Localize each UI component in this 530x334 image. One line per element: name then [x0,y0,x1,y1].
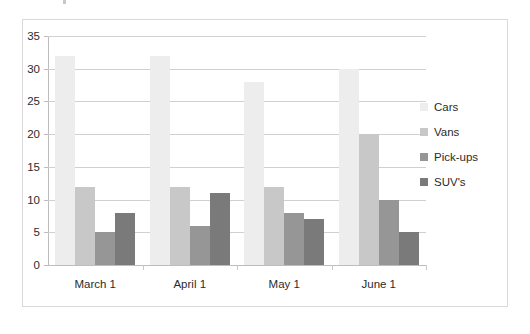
bar-cars-june-1[interactable] [339,69,359,265]
y-tick-label-10: 10 [27,194,40,206]
legend-swatch-cars [420,103,428,111]
y-tick-mark-35 [44,36,48,37]
image-artifact [63,0,66,4]
bar-group-june-1 [339,36,419,265]
bar-pick-ups-june-1[interactable] [379,200,399,265]
bar-vans-may-1[interactable] [264,187,284,266]
chart-legend: CarsVansPick-upsSUV's [420,94,505,194]
legend-label-suv-s: SUV's [434,176,466,188]
bar-vans-june-1[interactable] [359,134,379,265]
y-tick-mark-20 [44,134,48,135]
x-axis-label-april-1: April 1 [173,278,206,290]
y-tick-mark-30 [44,69,48,70]
y-tick-label-35: 35 [27,30,40,42]
legend-swatch-suv-s [420,178,428,186]
y-axis-line [48,36,49,265]
y-tick-mark-15 [44,167,48,168]
bar-suv-s-april-1[interactable] [210,193,230,265]
y-tick-label-15: 15 [27,161,40,173]
bar-group-may-1 [244,36,324,265]
bar-suv-s-may-1[interactable] [304,219,324,265]
category-separator-3 [332,265,333,270]
x-axis-label-june-1: June 1 [361,278,396,290]
category-separator-1 [143,265,144,270]
legend-item-pick-ups[interactable]: Pick-ups [420,144,505,169]
y-tick-mark-25 [44,101,48,102]
bar-group-april-1 [150,36,230,265]
y-tick-label-25: 25 [27,95,40,107]
x-axis-label-may-1: May 1 [269,278,300,290]
legend-swatch-vans [420,128,428,136]
bar-cars-may-1[interactable] [244,82,264,265]
legend-item-cars[interactable]: Cars [420,94,505,119]
legend-label-cars: Cars [434,101,458,113]
y-tick-label-30: 30 [27,63,40,75]
bar-pick-ups-april-1[interactable] [190,226,210,265]
bar-vans-april-1[interactable] [170,187,190,266]
bar-suv-s-june-1[interactable] [399,232,419,265]
y-tick-label-20: 20 [27,128,40,140]
legend-swatch-pick-ups [420,153,428,161]
y-tick-mark-0 [44,265,48,266]
plot-area: 05101520253035 March 1April 1May 1June 1 [48,36,426,265]
bar-suv-s-march-1[interactable] [115,213,135,265]
legend-label-vans: Vans [434,126,459,138]
x-axis-label-march-1: March 1 [74,278,116,290]
bar-group-march-1 [55,36,135,265]
bar-pick-ups-may-1[interactable] [284,213,304,265]
legend-item-suv-s[interactable]: SUV's [420,169,505,194]
category-separator-4 [426,265,427,270]
bar-cars-march-1[interactable] [55,56,75,265]
y-tick-mark-10 [44,200,48,201]
legend-label-pick-ups: Pick-ups [434,151,478,163]
legend-item-vans[interactable]: Vans [420,119,505,144]
y-tick-mark-5 [44,232,48,233]
bar-vans-march-1[interactable] [75,187,95,266]
category-separator-2 [237,265,238,270]
bar-cars-april-1[interactable] [150,56,170,265]
y-tick-label-5: 5 [34,226,40,238]
bar-pick-ups-march-1[interactable] [95,232,115,265]
y-tick-label-0: 0 [34,259,40,271]
